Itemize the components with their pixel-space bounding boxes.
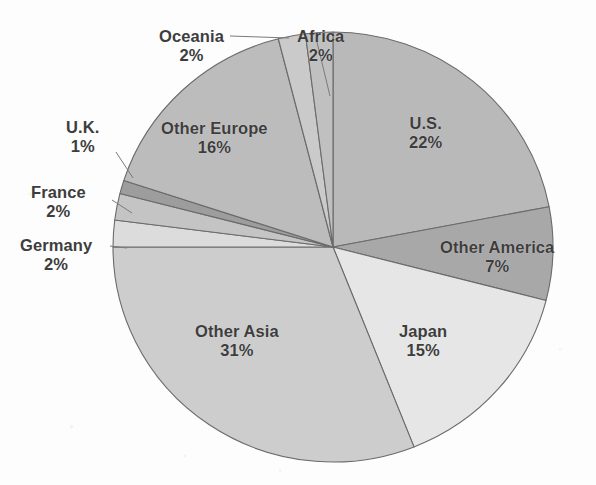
pie-label-name-u-s: U.S. — [409, 114, 442, 133]
pie-label-value-france: 2% — [31, 202, 86, 221]
pie-chart-figure: U.S.22%Other America7%Japan15%Other Asia… — [0, 0, 596, 485]
pie-label-u-k: U.K.1% — [66, 118, 99, 157]
pie-label-name-u-k: U.K. — [66, 118, 99, 137]
pie-label-value-u-s: 22% — [409, 133, 442, 152]
pie-label-germany: Germany2% — [20, 236, 92, 275]
pie-label-france: France2% — [31, 183, 86, 222]
pie-label-name-france: France — [31, 183, 86, 202]
oceania-leader — [230, 36, 289, 38]
pie-label-other-america: Other America7% — [440, 238, 554, 277]
pie-label-value-japan: 15% — [399, 341, 447, 360]
pie-label-value-u-k: 1% — [66, 137, 99, 156]
pie-label-name-other-europe: Other Europe — [161, 119, 268, 138]
pie-label-value-germany: 2% — [20, 255, 92, 274]
pie-label-name-africa: Africa — [297, 27, 344, 46]
pie-label-value-other-asia: 31% — [195, 341, 279, 360]
pie-label-other-europe: Other Europe16% — [161, 119, 268, 158]
pie-label-value-africa: 2% — [297, 46, 344, 65]
pie-label-value-other-europe: 16% — [161, 138, 268, 157]
pie-label-oceania: Oceania2% — [159, 27, 224, 66]
pie-label-value-oceania: 2% — [159, 46, 224, 65]
pie-label-name-japan: Japan — [399, 322, 447, 341]
pie-label-other-asia: Other Asia31% — [195, 322, 279, 361]
pie-label-name-germany: Germany — [20, 236, 92, 255]
pie-label-japan: Japan15% — [399, 322, 447, 361]
pie-label-name-other-america: Other America — [440, 238, 554, 257]
pie-label-u-s: U.S.22% — [409, 114, 442, 153]
pie-label-name-oceania: Oceania — [159, 27, 224, 46]
pie-label-value-other-america: 7% — [440, 257, 554, 276]
pie-label-africa: Africa2% — [297, 27, 344, 66]
pie-label-name-other-asia: Other Asia — [195, 322, 279, 341]
